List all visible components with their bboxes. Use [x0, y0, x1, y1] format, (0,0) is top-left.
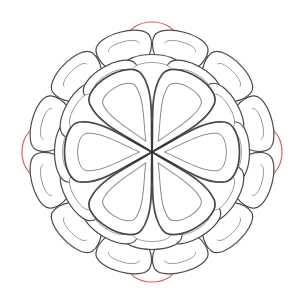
mandala-canvas: Line-art mandala / flower drawing with l…	[0, 0, 299, 305]
mandala-drawing	[0, 0, 299, 305]
